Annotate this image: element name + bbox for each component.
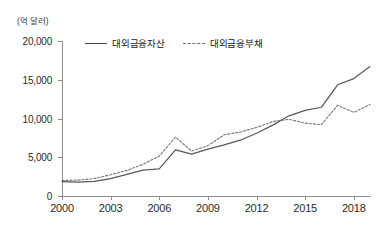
line-chart: (억 달러) 대외금융자산 대외금융부채 05,00010,00015,0002… xyxy=(0,0,387,231)
series-plot-area xyxy=(0,0,387,231)
series-line-asset xyxy=(62,67,370,182)
series-line-liability xyxy=(62,105,370,181)
